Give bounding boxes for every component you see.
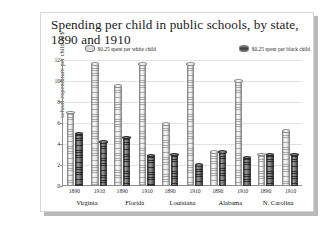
bar-black[interactable] xyxy=(266,155,274,187)
bar-cap xyxy=(114,84,123,88)
bar-black[interactable] xyxy=(147,156,155,186)
bar-white[interactable] xyxy=(282,131,290,186)
bar-body xyxy=(243,158,251,186)
screenshot-root: Spending per child in public schools, by… xyxy=(0,0,322,239)
bar-white[interactable] xyxy=(235,81,243,186)
bar-pair xyxy=(282,131,298,186)
legend-label-black: $0.25 spent per black child xyxy=(252,46,310,52)
bar-body xyxy=(162,124,170,186)
bar-body xyxy=(219,152,227,186)
x-year-label: 1890 xyxy=(258,188,274,194)
bar-body xyxy=(114,86,122,186)
bar-black[interactable] xyxy=(123,138,131,186)
legend-item-white[interactable]: $0.25 spent per white child xyxy=(85,45,156,52)
legend-item-black[interactable]: $0.25 spent per black child xyxy=(239,45,310,52)
y-tick-label: 10 xyxy=(50,78,60,84)
cylinder-white-icon xyxy=(85,45,95,52)
cylinder-black-icon xyxy=(239,45,249,52)
bar-white[interactable] xyxy=(210,152,218,186)
bar-cap xyxy=(195,163,204,167)
bar-cap xyxy=(138,62,147,66)
bar-pair xyxy=(187,64,203,186)
bar-body xyxy=(91,64,99,186)
plot-area: 024681012 xyxy=(62,60,302,186)
bar-cap xyxy=(257,153,266,157)
x-year-label: 1910 xyxy=(235,188,251,194)
bar-cap xyxy=(162,122,171,126)
y-tick-label: 0 xyxy=(50,183,60,189)
bar-cap xyxy=(170,153,179,157)
bar-black[interactable] xyxy=(243,158,251,186)
bar-pair xyxy=(91,64,107,186)
bar-cap xyxy=(234,79,243,83)
bar-body xyxy=(235,81,243,186)
bar-white[interactable] xyxy=(258,155,266,187)
bar-white[interactable] xyxy=(162,124,170,186)
page-title: Spending per child in public schools, by… xyxy=(51,18,307,47)
bar-pair xyxy=(210,152,226,186)
bar-body xyxy=(171,155,179,187)
bar-white[interactable] xyxy=(67,113,75,187)
x-year-group: 18901910 xyxy=(159,188,207,194)
bar-cap xyxy=(210,150,219,154)
bar-cap xyxy=(66,111,75,115)
bar-white[interactable] xyxy=(91,64,99,186)
bar-pair xyxy=(235,81,251,186)
x-year-label: 1890 xyxy=(210,188,226,194)
bar-pair xyxy=(114,86,130,186)
bar-body xyxy=(210,152,218,186)
bar-body xyxy=(291,155,299,187)
x-state-label: Louisiana xyxy=(159,199,207,206)
y-tick-label: 12 xyxy=(50,57,60,63)
bar-white[interactable] xyxy=(139,64,147,186)
bar-body xyxy=(67,113,75,187)
x-state-label: Alabama xyxy=(206,199,254,206)
x-year-label: 1910 xyxy=(187,188,203,194)
x-year-group: 18901910 xyxy=(206,188,254,194)
bar-black[interactable] xyxy=(75,134,83,187)
bar-cap xyxy=(290,153,299,157)
bar-pair xyxy=(258,155,274,187)
y-tick-label: 6 xyxy=(50,120,60,126)
x-state-label: Virginia xyxy=(63,199,111,206)
y-tick-label: 4 xyxy=(50,141,60,147)
chart-card: Spending per child in public schools, by… xyxy=(40,12,314,212)
x-year-label: 1890 xyxy=(114,188,130,194)
bar-black[interactable] xyxy=(171,155,179,187)
bar-black[interactable] xyxy=(219,152,227,186)
bar-body xyxy=(258,155,266,187)
bar-body xyxy=(282,131,290,186)
bar-body xyxy=(147,156,155,186)
bar-cap xyxy=(75,132,84,136)
bar-white[interactable] xyxy=(187,64,195,186)
bar-body xyxy=(187,64,195,186)
x-state-label: Florida xyxy=(111,199,159,206)
bar-pair xyxy=(67,113,83,187)
bar-body xyxy=(123,138,131,186)
x-year-group: 18901910 xyxy=(63,188,111,194)
y-tick-label: 8 xyxy=(50,99,60,105)
bar-black[interactable] xyxy=(291,155,299,187)
bar-body xyxy=(266,155,274,187)
x-year-group: 18901910 xyxy=(111,188,159,194)
x-axis-year-labels: 1890191018901910189019101890191018901910 xyxy=(63,188,302,194)
bar-white[interactable] xyxy=(114,86,122,186)
x-year-label: 1910 xyxy=(283,188,299,194)
bar-cap xyxy=(218,150,227,154)
bar-group xyxy=(254,60,302,186)
bar-body xyxy=(195,165,203,186)
x-state-label: N. Carolina xyxy=(254,199,302,206)
bar-groups xyxy=(63,60,302,186)
y-tick-label: 2 xyxy=(50,162,60,168)
x-year-group: 18901910 xyxy=(254,188,302,194)
bar-group xyxy=(159,60,207,186)
bar-group xyxy=(111,60,159,186)
legend-label-white: $0.25 spent per white child xyxy=(98,46,157,52)
bar-cap xyxy=(91,62,100,66)
x-year-label: 1910 xyxy=(139,188,155,194)
bar-black[interactable] xyxy=(195,165,203,186)
bar-black[interactable] xyxy=(100,142,108,186)
bar-body xyxy=(139,64,147,186)
chart-legend: $0.25 spent per white child $0.25 spent … xyxy=(85,45,310,52)
bar-cap xyxy=(186,62,195,66)
